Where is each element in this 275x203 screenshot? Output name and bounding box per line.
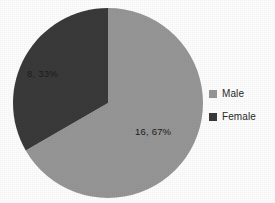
pie-label-female: 8, 33% [27,68,58,79]
legend-label-female: Female [222,111,256,122]
legend-swatch-female-icon [209,113,217,121]
pie-label-male: 16, 67% [135,126,171,137]
legend-swatch-male-icon [209,90,217,98]
pie-chart: 8, 33% 16, 67% Male Female [0,0,275,203]
chart-legend: Male Female [209,88,256,122]
legend-item-male[interactable]: Male [209,88,256,99]
legend-item-female[interactable]: Female [209,111,256,122]
legend-label-male: Male [222,88,244,99]
